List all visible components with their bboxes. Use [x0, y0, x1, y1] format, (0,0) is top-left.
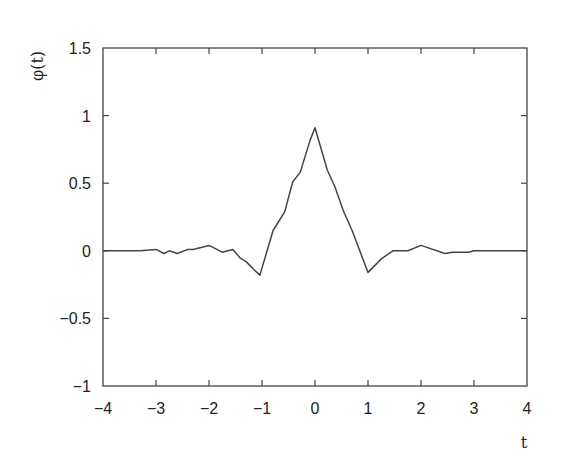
plot-frame: [103, 48, 527, 386]
y-tick-label: 1: [82, 108, 91, 125]
x-tick-label: 1: [364, 400, 373, 417]
y-tick-label: 0.5: [69, 175, 91, 192]
x-tick-labels: −4−3−2−101234: [94, 400, 532, 417]
y-tick-label: −0.5: [59, 310, 91, 327]
x-tick-label: −4: [94, 400, 112, 417]
x-tick-label: −3: [147, 400, 165, 417]
y-axis-label: φ(t): [28, 51, 47, 81]
x-tick-label: 0: [311, 400, 320, 417]
x-tick-label: −1: [253, 400, 271, 417]
x-tick-label: 4: [523, 400, 532, 417]
axis-ticks: [103, 48, 527, 386]
x-tick-label: 3: [470, 400, 479, 417]
y-tick-labels: −1−0.500.511.5: [59, 40, 91, 395]
y-tick-label: 1.5: [69, 40, 91, 57]
x-tick-label: −2: [200, 400, 218, 417]
plot-area: [103, 48, 527, 386]
x-tick-label: 2: [417, 400, 426, 417]
phi-curve: [103, 128, 527, 275]
x-axis-label: t: [521, 433, 528, 452]
y-tick-label: −1: [73, 378, 91, 395]
chart: −4−3−2−101234 −1−0.500.511.5 t φ(t): [0, 0, 563, 476]
y-tick-label: 0: [82, 243, 91, 260]
